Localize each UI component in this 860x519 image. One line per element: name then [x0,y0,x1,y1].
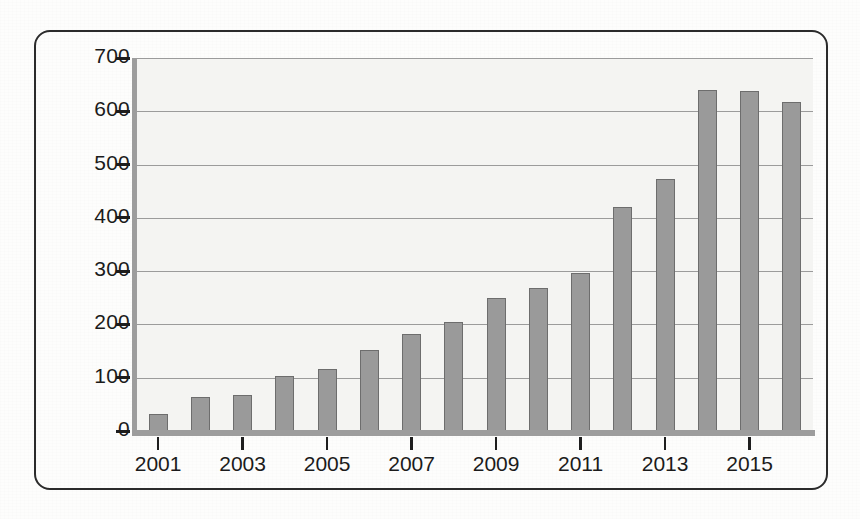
scanned-page: the faint impression of text bleeding th… [0,0,860,519]
figure-border [34,30,828,490]
